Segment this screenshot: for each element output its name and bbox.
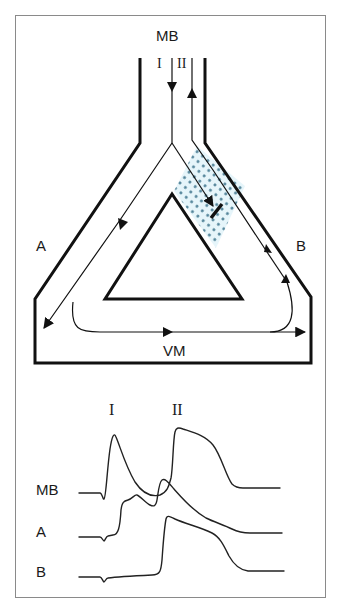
trace-b bbox=[79, 516, 284, 582]
trace-a bbox=[79, 479, 282, 541]
trace-mb bbox=[79, 428, 280, 499]
label-pathway-2: II bbox=[177, 57, 186, 71]
electrogram-traces bbox=[79, 428, 284, 582]
label-vm: VM bbox=[163, 343, 186, 358]
trace-header-1: I bbox=[109, 402, 114, 418]
diagram-canvas bbox=[0, 0, 342, 614]
trace-label-b: B bbox=[36, 564, 46, 579]
trace-header-2: II bbox=[172, 402, 183, 418]
label-pathway-1: I bbox=[157, 57, 162, 71]
label-a: A bbox=[36, 238, 46, 253]
trace-label-a: A bbox=[36, 524, 46, 539]
trace-label-mb: MB bbox=[36, 482, 59, 497]
label-b: B bbox=[296, 238, 306, 253]
label-mb-top: MB bbox=[156, 28, 179, 43]
